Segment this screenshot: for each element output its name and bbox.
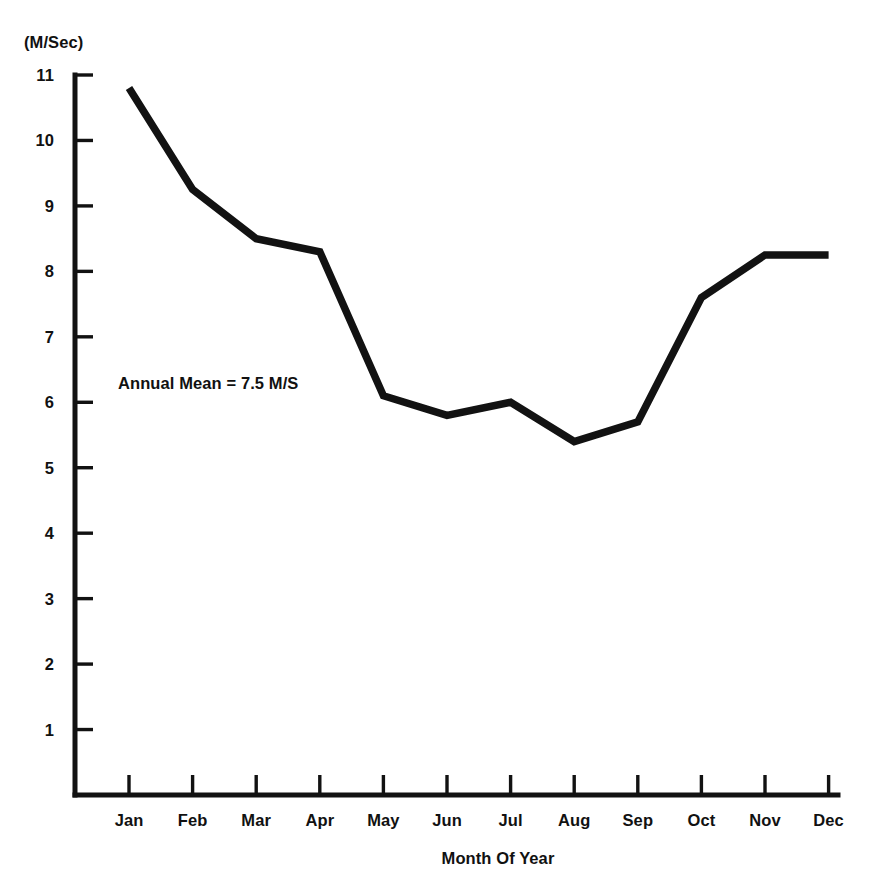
x-tick-label: Dec bbox=[799, 811, 859, 830]
annual-mean-annotation: Annual Mean = 7.5 M/S bbox=[118, 374, 298, 393]
x-tick-label: Aug bbox=[544, 811, 604, 830]
x-tick-label: Jan bbox=[99, 811, 159, 830]
y-tick-label: 3 bbox=[14, 590, 54, 609]
chart-canvas bbox=[0, 0, 876, 895]
y-tick-label: 10 bbox=[14, 131, 54, 150]
x-tick-label: May bbox=[353, 811, 413, 830]
y-tick-label: 4 bbox=[14, 524, 54, 543]
x-tick-label: Apr bbox=[290, 811, 350, 830]
y-tick-label: 11 bbox=[14, 66, 54, 85]
y-axis-unit-label: (M/Sec) bbox=[24, 33, 83, 52]
x-tick-label: Oct bbox=[671, 811, 731, 830]
y-tick-label: 8 bbox=[14, 262, 54, 281]
x-tick-label: Sep bbox=[608, 811, 668, 830]
y-tick-label: 7 bbox=[14, 328, 54, 347]
y-tick-label: 5 bbox=[14, 459, 54, 478]
x-tick-label: Jun bbox=[417, 811, 477, 830]
x-axis-ticks bbox=[129, 775, 829, 793]
x-tick-label: Feb bbox=[163, 811, 223, 830]
x-tick-label: Mar bbox=[226, 811, 286, 830]
y-tick-label: 1 bbox=[14, 721, 54, 740]
x-tick-label: Nov bbox=[735, 811, 795, 830]
x-tick-label: Jul bbox=[481, 811, 541, 830]
y-axis-ticks bbox=[76, 75, 93, 730]
x-axis-title: Month Of Year bbox=[368, 849, 628, 868]
y-tick-label: 2 bbox=[14, 655, 54, 674]
y-tick-label: 9 bbox=[14, 197, 54, 216]
y-tick-label: 6 bbox=[14, 393, 54, 412]
wind-speed-line-chart: (M/Sec) 1234567891011 JanFebMarAprMayJun… bbox=[0, 0, 876, 895]
